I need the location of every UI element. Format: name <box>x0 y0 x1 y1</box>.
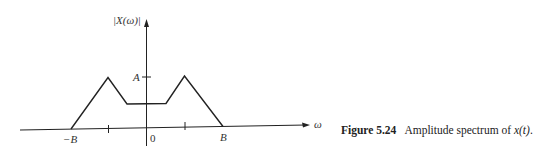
caption-text: Amplitude spectrum of <box>404 124 514 136</box>
x-axis <box>20 123 310 131</box>
tick-label-zero: 0 <box>150 132 156 144</box>
y-axis-label: |X(ω)| <box>113 14 141 27</box>
x-axis-label: ω <box>314 118 322 130</box>
figure-caption: Figure 5.24Amplitude spectrum of x(t). <box>341 124 533 136</box>
caption-variable: x(t) <box>514 124 530 136</box>
y-axis <box>144 19 149 146</box>
y-axis-arrow-icon <box>144 19 149 27</box>
tick-label-pos-B: B <box>220 131 227 143</box>
x-axis-arrow-icon <box>302 123 310 128</box>
tick-label-A: A <box>132 71 140 83</box>
figure-number: Figure 5.24 <box>341 124 396 136</box>
tick-label-neg-B: −B <box>63 133 77 145</box>
caption-end: . <box>530 124 533 136</box>
